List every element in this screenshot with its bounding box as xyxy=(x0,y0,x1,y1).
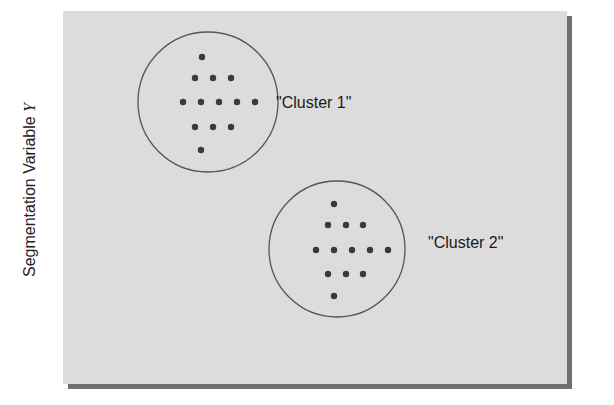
data-point xyxy=(343,222,349,228)
data-point xyxy=(192,124,198,130)
data-point xyxy=(180,99,186,105)
data-point xyxy=(210,124,216,130)
cluster-1-points xyxy=(180,54,258,153)
data-point xyxy=(198,147,204,153)
data-point xyxy=(210,75,216,81)
data-point xyxy=(360,271,366,277)
data-point xyxy=(198,99,204,105)
cluster-diagram xyxy=(0,0,614,405)
data-point xyxy=(331,201,337,207)
data-point xyxy=(216,99,222,105)
data-point xyxy=(199,54,205,60)
data-point xyxy=(367,247,373,253)
data-point xyxy=(192,75,198,81)
data-point xyxy=(313,247,319,253)
data-point xyxy=(228,124,234,130)
data-point xyxy=(325,271,331,277)
data-point xyxy=(343,271,349,277)
data-point xyxy=(234,99,240,105)
data-point xyxy=(331,247,337,253)
data-point xyxy=(228,75,234,81)
cluster-2-label: "Cluster 2" xyxy=(428,234,503,252)
data-point xyxy=(349,247,355,253)
data-point xyxy=(252,99,258,105)
data-point xyxy=(385,247,391,253)
cluster-2-points xyxy=(313,201,391,299)
cluster-1-group xyxy=(138,32,278,172)
cluster-1-label: "Cluster 1" xyxy=(276,94,351,112)
cluster-2-group xyxy=(269,181,405,317)
data-point xyxy=(331,293,337,299)
data-point xyxy=(325,222,331,228)
data-point xyxy=(360,222,366,228)
